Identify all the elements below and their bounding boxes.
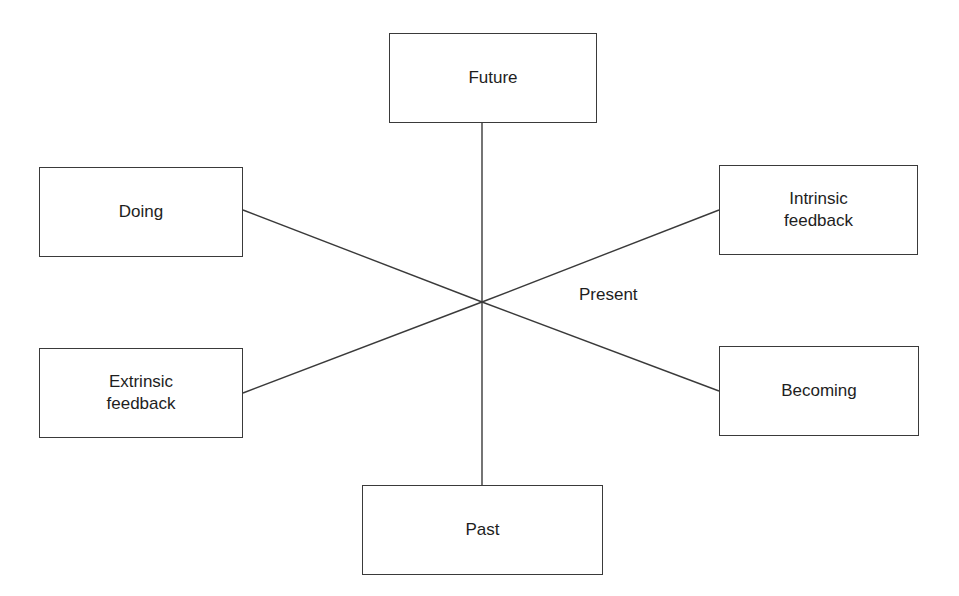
node-label-future: Future (468, 67, 517, 89)
node-label-doing: Doing (119, 201, 163, 223)
node-past: Past (362, 485, 603, 575)
node-doing: Doing (39, 167, 243, 257)
node-future: Future (389, 33, 597, 123)
connector-becoming (482, 302, 719, 391)
node-label-extrinsic-feedback: Extrinsic feedback (107, 371, 176, 415)
center-label-present: Present (579, 284, 638, 306)
diagram-canvas: Future Doing Intrinsic feedback Extrinsi… (0, 0, 959, 596)
node-becoming: Becoming (719, 346, 919, 436)
connector-doing (243, 210, 482, 302)
node-label-becoming: Becoming (781, 380, 857, 402)
node-intrinsic-feedback: Intrinsic feedback (719, 165, 918, 255)
node-extrinsic-feedback: Extrinsic feedback (39, 348, 243, 438)
node-label-past: Past (465, 519, 499, 541)
node-label-intrinsic-feedback: Intrinsic feedback (784, 188, 853, 232)
connector-extrinsic (243, 302, 482, 393)
